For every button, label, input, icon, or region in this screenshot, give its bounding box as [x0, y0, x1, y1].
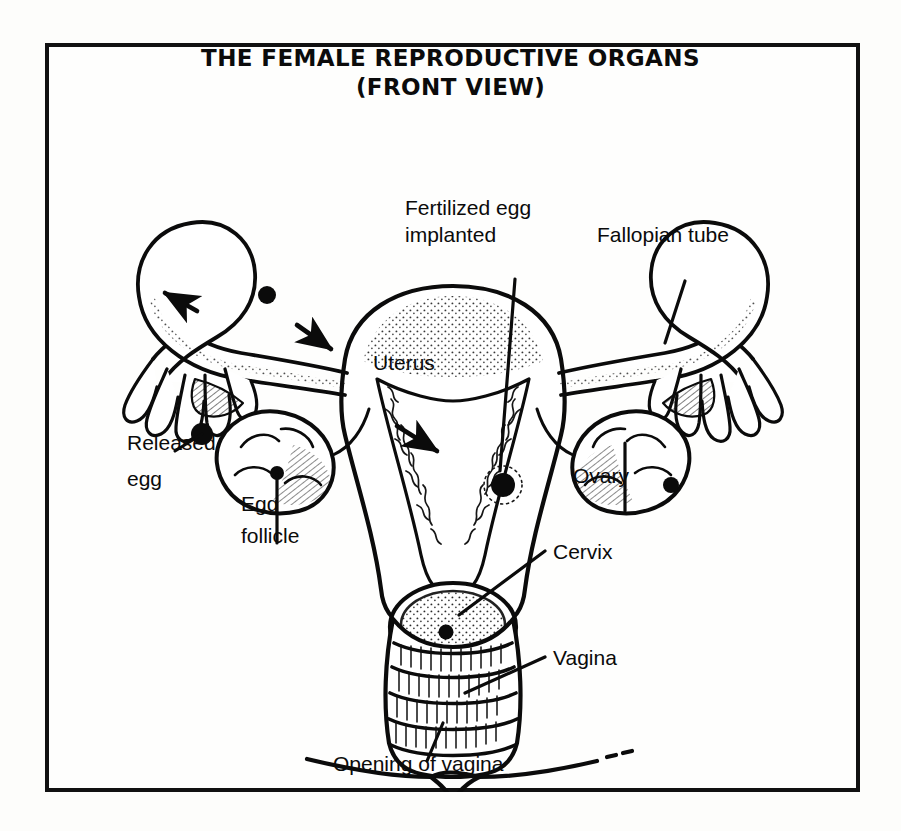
label-fallopian-tube: Fallopian tube [597, 223, 729, 246]
label-vagina: Vagina [553, 646, 617, 669]
label-released-egg-line2: egg [127, 467, 162, 490]
right-fallopian-tube [559, 222, 782, 441]
figure-page: THE FEMALE REPRODUCTIVE ORGANS (FRONT VI… [0, 0, 901, 831]
uterus-organ [341, 286, 565, 671]
fertilized-egg-marker [491, 473, 515, 497]
label-ovary: Ovary [573, 464, 630, 487]
label-opening-of-vagina: Opening of vagina [333, 752, 504, 775]
label-egg-follicle-line1: Egg [241, 492, 278, 515]
label-cervix: Cervix [553, 540, 613, 563]
egg-in-tube-marker [258, 286, 276, 304]
left-fallopian-tube [124, 222, 347, 445]
anatomical-diagram: Fertilized egg implanted Fallopian tube … [45, 43, 860, 792]
right-ovary-follicle-marker [663, 477, 679, 493]
label-fertilized-egg: Fertilized egg [405, 196, 531, 219]
arrow-tube-proximal [297, 325, 331, 349]
reproductive-organs-drawing: Fertilized egg implanted Fallopian tube … [45, 43, 860, 792]
label-released-egg-line1: Released [127, 431, 216, 454]
label-implanted: implanted [405, 223, 496, 246]
opening-dashes [607, 751, 632, 757]
cervical-os [439, 625, 454, 640]
label-uterus: Uterus [373, 351, 435, 374]
label-egg-follicle-line2: follicle [241, 524, 299, 547]
